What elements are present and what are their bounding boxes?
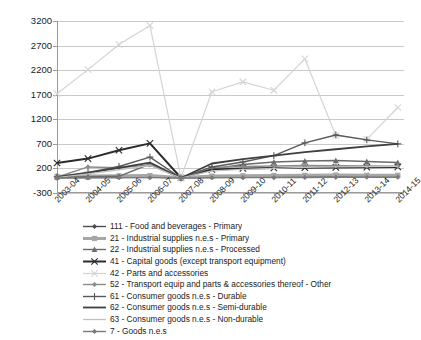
plot-canvas [57, 21, 404, 193]
chart-container: -30020070012001700220027003200 2003-0420… [0, 0, 421, 340]
data-point-marker [302, 56, 308, 62]
legend-label: 63 - Consumer goods n.e.s - Non-durable [110, 314, 263, 325]
legend-label: 41 - Capital goods (except transport equ… [110, 256, 286, 267]
legend-marker-icon [82, 279, 107, 290]
legend-item-21[interactable]: 21 - Industrial supplies n.e.s - Primary [82, 233, 417, 245]
data-point-marker [91, 293, 98, 300]
data-point-marker [301, 139, 308, 146]
legend-item-42[interactable]: 42 - Parts and accessories [82, 267, 417, 279]
legend-marker-icon [82, 314, 107, 325]
series-line [57, 25, 398, 177]
legend-item-62[interactable]: 62 - Consumer goods n.e.s - Semi-durable [82, 302, 417, 314]
y-tick-label: 700 [4, 139, 52, 149]
legend-label: 52 - Transport equip and parts & accesso… [110, 279, 331, 290]
data-point-marker [85, 164, 90, 169]
legend-label: 22 - Industrial supplies n.e.s - Process… [110, 244, 260, 255]
legend-item-22[interactable]: 22 - Industrial supplies n.e.s - Process… [82, 244, 417, 256]
data-point-marker [92, 224, 97, 229]
legend-marker-icon [82, 256, 107, 267]
legend-label: 21 - Industrial supplies n.e.s - Primary [110, 233, 249, 244]
legend-marker-icon [82, 302, 107, 313]
y-tick-label: 1700 [4, 90, 52, 100]
legend-label: 7 - Goods n.e.s [110, 326, 167, 337]
data-point-marker [92, 282, 97, 287]
series-lines [57, 21, 404, 193]
y-axis-labels: -30020070012001700220027003200 [0, 0, 52, 200]
legend-marker-icon [82, 244, 107, 255]
data-point-marker [92, 329, 97, 334]
series-42 [54, 22, 401, 181]
data-point-marker [395, 104, 401, 110]
y-tick-label: 1200 [4, 114, 52, 124]
legend-label: 42 - Parts and accessories [110, 268, 208, 279]
legend-marker-icon [82, 233, 107, 244]
legend-marker-icon [82, 268, 107, 279]
plot-area: -30020070012001700220027003200 [0, 0, 421, 200]
data-point-marker [92, 236, 97, 241]
legend-label: 111 - Food and beverages - Primary [110, 221, 242, 232]
y-tick-label: 200 [4, 163, 52, 173]
legend-item-61[interactable]: 61 - Consumer goods n.e.s - Durable [82, 291, 417, 303]
data-point-marker [85, 66, 91, 72]
chart-legend: 111 - Food and beverages - Primary21 - I… [82, 221, 417, 337]
legend-item-41[interactable]: 41 - Capital goods (except transport equ… [82, 256, 417, 268]
legend-marker-icon [82, 291, 107, 302]
data-point-marker [209, 89, 215, 95]
y-tick-label: 3200 [4, 16, 52, 26]
legend-item-7[interactable]: 7 - Goods n.e.s [82, 325, 417, 337]
legend-marker-icon [82, 221, 107, 232]
legend-item-63[interactable]: 63 - Consumer goods n.e.s - Non-durable [82, 314, 417, 326]
legend-item-52[interactable]: 52 - Transport equip and parts & accesso… [82, 279, 417, 291]
legend-item-111[interactable]: 111 - Food and beverages - Primary [82, 221, 417, 233]
legend-marker-icon [82, 326, 107, 337]
y-tick-label: 2200 [4, 65, 52, 75]
data-point-marker [116, 41, 122, 47]
legend-label: 62 - Consumer goods n.e.s - Semi-durable [110, 302, 267, 313]
legend-label: 61 - Consumer goods n.e.s - Durable [110, 291, 247, 302]
y-tick-label: 2700 [4, 41, 52, 51]
